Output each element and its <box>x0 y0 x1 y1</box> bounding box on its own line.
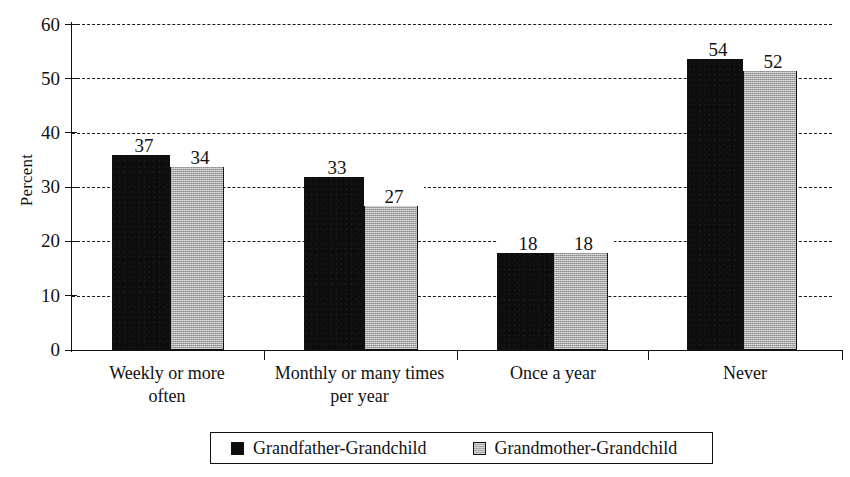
y-axis-line <box>71 22 72 352</box>
x-axis-end-tick <box>842 350 843 360</box>
legend-label-grandfather: Grandfather-Grandchild <box>253 439 427 457</box>
bar-chart: Percent 60 50 40 30 20 10 0 37 34 33 27 … <box>0 0 850 477</box>
legend-entry-grandfather: Grandfather-Grandchild <box>231 439 427 457</box>
bar-weekly-grandmother <box>170 165 224 350</box>
bar-value-monthly-grandfather: 33 <box>304 158 370 177</box>
bar-value-onceayear-grandmother: 18 <box>553 234 614 253</box>
x-axis-group-tick-3 <box>648 350 649 360</box>
gridline-60 <box>72 24 832 25</box>
bar-value-weekly-grandmother: 34 <box>170 148 230 167</box>
bar-monthly-grandfather <box>304 171 364 350</box>
y-tick-label-50: 50 <box>26 69 60 88</box>
bar-value-onceayear-grandfather: 18 <box>497 234 559 253</box>
legend-entry-grandmother: Grandmother-Grandchild <box>473 439 678 457</box>
y-tick-label-0: 0 <box>26 340 60 359</box>
bar-value-monthly-grandmother: 27 <box>364 187 424 206</box>
bar-value-never-grandfather: 54 <box>687 40 749 59</box>
x-axis-label-never: Never <box>648 362 842 385</box>
plot-area: 37 34 33 27 18 18 54 52 <box>72 24 832 350</box>
x-axis-label-weekly: Weekly or more often <box>72 362 262 408</box>
bar-onceayear-grandfather <box>497 252 553 350</box>
x-axis-group-tick-1 <box>264 350 265 360</box>
bar-monthly-grandmother <box>364 203 418 350</box>
bar-onceayear-grandmother <box>553 252 608 350</box>
y-tick-label-10: 10 <box>26 286 60 305</box>
bar-never-grandfather <box>687 57 743 350</box>
legend: Grandfather-Grandchild Grandmother-Grand… <box>210 432 713 464</box>
bar-value-weekly-grandfather: 37 <box>112 136 176 155</box>
x-axis-label-onceayear: Once a year <box>458 362 648 385</box>
bar-value-never-grandmother: 52 <box>743 52 803 71</box>
bar-weekly-grandfather <box>112 149 170 350</box>
y-tick-label-20: 20 <box>26 231 60 250</box>
x-axis-group-tick-2 <box>457 350 458 360</box>
y-tick-label-40: 40 <box>26 123 60 142</box>
y-tick-label-60: 60 <box>26 15 60 34</box>
x-axis-label-monthly: Monthly or many times per year <box>262 362 457 408</box>
legend-label-grandmother: Grandmother-Grandchild <box>495 439 678 457</box>
legend-swatch-icon-grandmother <box>473 442 486 455</box>
legend-swatch-icon-grandfather <box>231 442 244 455</box>
y-tick-label-30: 30 <box>26 177 60 196</box>
bar-never-grandmother <box>743 68 797 350</box>
